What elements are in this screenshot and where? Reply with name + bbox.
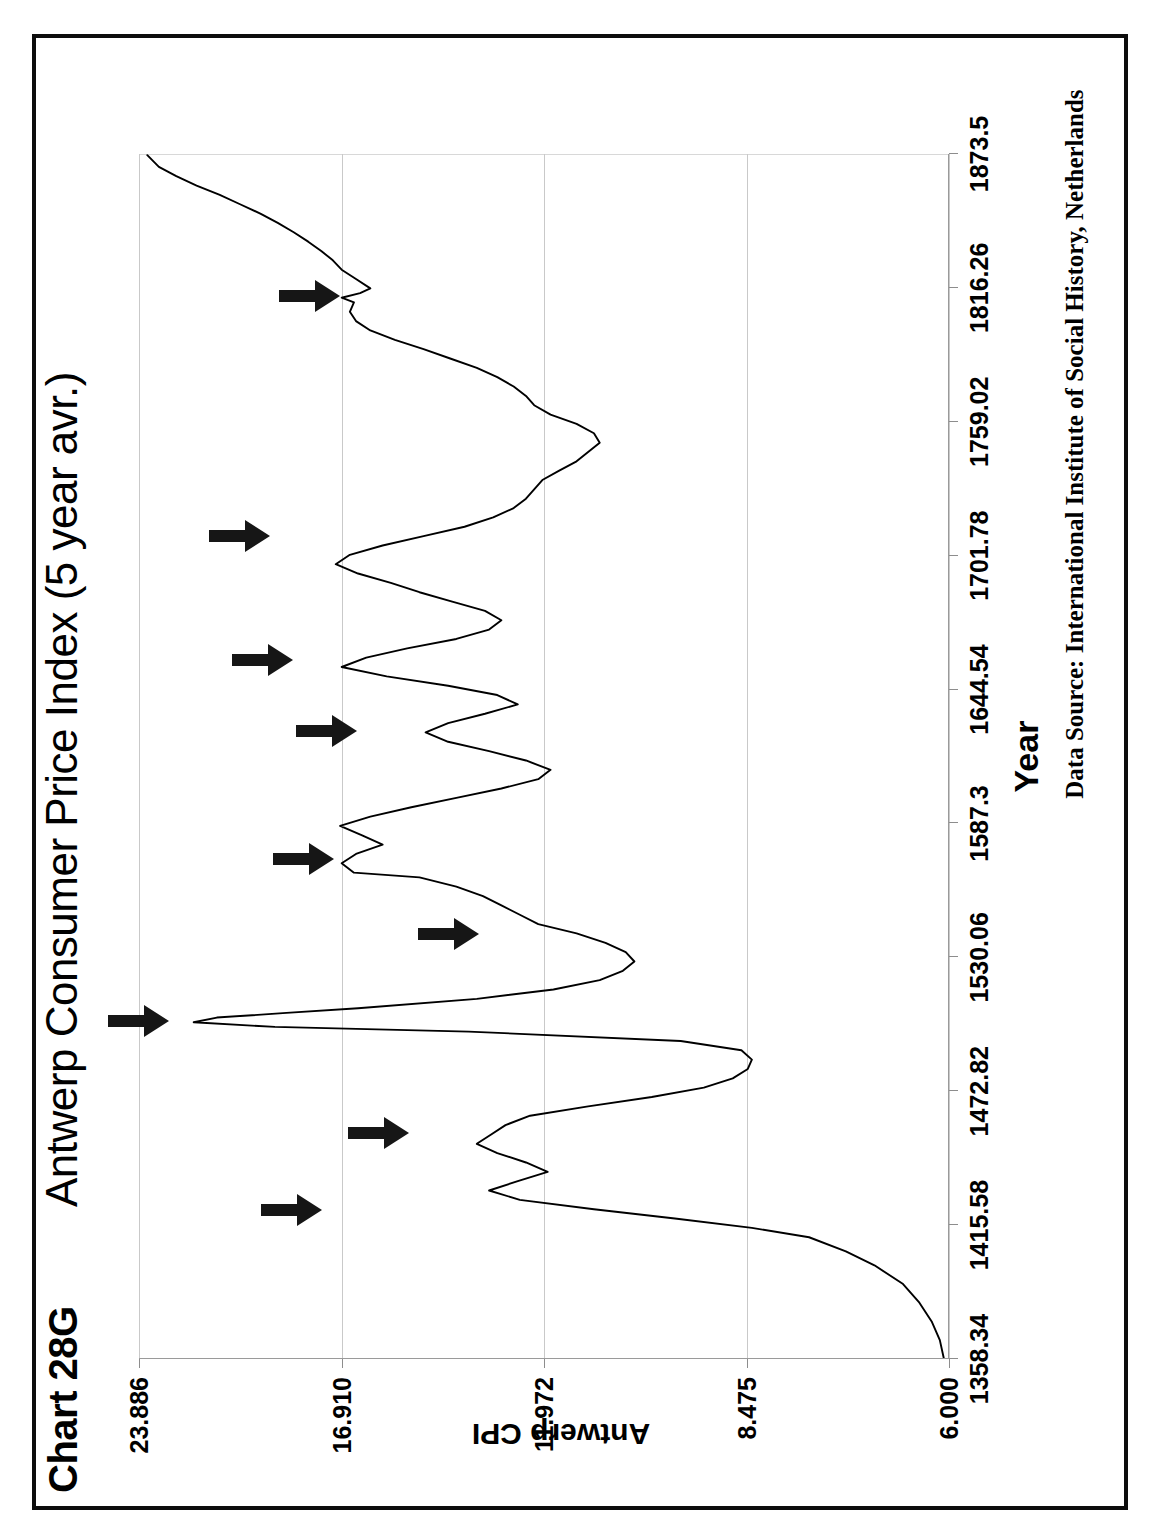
chart-title: Antwerp Consumer Price Index (5 year avr… <box>37 372 87 1207</box>
year-axis-tick-label: 1472.82 <box>965 1046 994 1136</box>
year-axis-tick-mark <box>949 1358 958 1359</box>
year-axis-tick-label: 1816.26 <box>965 243 994 333</box>
year-axis-tick-mark <box>949 822 958 823</box>
right-arrow-icon <box>348 1116 410 1150</box>
plot-area <box>139 154 949 1359</box>
value-axis-tick-mark <box>342 1359 343 1368</box>
data-source-note: Data Source: International Institute of … <box>1061 89 1089 798</box>
year-axis-tick-label: 1587.3 <box>965 785 994 861</box>
rotated-chart-canvas: Chart 28G Antwerp Consumer Price Index (… <box>35 37 1125 1507</box>
value-axis-tick-label: 16.910 <box>327 1377 356 1507</box>
right-arrow-icon <box>108 1004 170 1038</box>
year-axis-tick-mark <box>949 956 958 957</box>
year-axis-tick-label: 1415.58 <box>965 1180 994 1270</box>
value-axis-title: Antwerp CPI <box>472 1417 650 1451</box>
year-axis-tick-label: 1644.54 <box>965 644 994 734</box>
year-axis-tick-label: 1873.5 <box>965 116 994 192</box>
year-axis-tick-mark <box>949 1224 958 1225</box>
right-arrow-icon <box>232 643 294 677</box>
chart-number-label: Chart 28G <box>41 1306 86 1493</box>
year-axis-tick-label: 1358.34 <box>965 1314 994 1404</box>
value-axis-tick-mark <box>949 1359 950 1368</box>
cpi-line-series <box>147 155 944 1358</box>
scanned-page: Chart 28G Antwerp Consumer Price Index (… <box>0 0 1155 1538</box>
series-svg <box>139 154 948 1358</box>
year-axis-tick-label: 1530.06 <box>965 912 994 1002</box>
year-axis-tick-mark <box>949 1090 958 1091</box>
year-axis-tick-label: 1701.78 <box>965 510 994 600</box>
year-axis-title: Year <box>1007 721 1046 793</box>
right-arrow-icon <box>273 842 335 876</box>
value-axis-tick-mark <box>139 1359 140 1368</box>
gridline-value <box>949 154 950 1358</box>
value-axis-tick-label: 6.000 <box>935 1377 964 1507</box>
right-arrow-icon <box>261 1193 323 1227</box>
year-axis-tick-mark <box>949 287 958 288</box>
year-axis-tick-mark <box>949 555 958 556</box>
right-arrow-icon <box>296 714 358 748</box>
year-axis-tick-mark <box>949 689 958 690</box>
value-axis-tick-label: 23.886 <box>125 1377 154 1507</box>
right-arrow-icon <box>209 519 271 553</box>
right-arrow-icon <box>279 279 341 313</box>
value-axis-tick-mark <box>544 1359 545 1368</box>
year-axis-tick-mark <box>949 153 958 154</box>
value-axis-tick-label: 8.475 <box>732 1377 761 1507</box>
year-axis-tick-label: 1759.02 <box>965 377 994 467</box>
value-axis-tick-mark <box>747 1359 748 1368</box>
right-arrow-icon <box>418 917 480 951</box>
year-axis-tick-mark <box>949 421 958 422</box>
page-border-frame: Chart 28G Antwerp Consumer Price Index (… <box>32 34 1128 1510</box>
